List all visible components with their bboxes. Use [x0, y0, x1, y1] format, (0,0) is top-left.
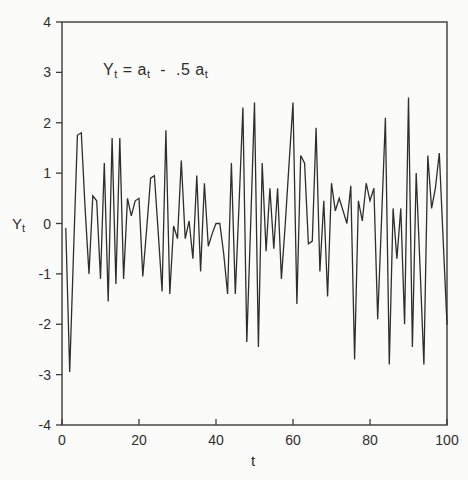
x-tick-label: 80 — [362, 432, 378, 448]
y-tick-label: 4 — [43, 14, 51, 30]
y-axis-label: Yt — [12, 215, 25, 234]
y-tick-label: 3 — [43, 64, 51, 80]
time-series-polyline — [66, 98, 447, 373]
y-axis-ticks — [56, 22, 62, 425]
x-axis-tick-labels: 020406080100 — [58, 432, 459, 448]
equation-annotation: Yt = at - .5 at — [103, 61, 208, 80]
x-tick-label: 20 — [131, 432, 147, 448]
x-tick-label: 100 — [435, 432, 459, 448]
x-axis-label: t — [251, 452, 256, 469]
x-tick-label: 60 — [285, 432, 301, 448]
y-tick-label: -3 — [39, 367, 52, 383]
y-tick-label: -4 — [39, 417, 52, 433]
y-tick-label: 1 — [43, 165, 51, 181]
x-tick-label: 40 — [208, 432, 224, 448]
y-tick-label: -1 — [39, 266, 52, 282]
y-tick-label: 2 — [43, 115, 51, 131]
x-tick-label: 0 — [58, 432, 66, 448]
data-series-line — [66, 98, 447, 373]
y-tick-label: 0 — [43, 216, 51, 232]
y-axis-tick-labels: -4-3-2-101234 — [39, 14, 52, 433]
chart-figure: -4-3-2-101234 020406080100 Yt = at - .5 … — [0, 0, 468, 480]
time-series-chart: -4-3-2-101234 020406080100 Yt = at - .5 … — [0, 0, 468, 480]
y-tick-label: -2 — [39, 316, 52, 332]
x-axis-ticks — [62, 419, 447, 425]
